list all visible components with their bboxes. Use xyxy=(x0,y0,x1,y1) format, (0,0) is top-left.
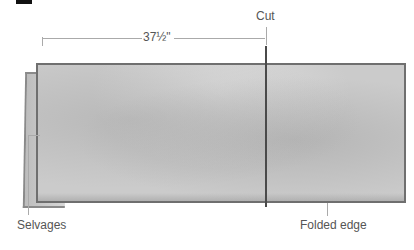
selvages-label: Selvages xyxy=(17,218,66,232)
selvages-leader-horizontal xyxy=(28,135,40,136)
cut-leader-line xyxy=(266,27,267,45)
folded-edge-shade xyxy=(36,193,406,203)
folded-edge-label: Folded edge xyxy=(300,218,367,232)
measurement-label: 37½" xyxy=(143,30,171,44)
cut-label: Cut xyxy=(256,9,275,23)
cut-line xyxy=(265,46,267,207)
measure-line-left xyxy=(42,38,142,39)
measure-line-right xyxy=(174,38,265,39)
fabric-rectangle xyxy=(36,63,406,203)
corner-marker xyxy=(16,0,32,4)
folded-edge-leader xyxy=(327,203,328,216)
selvages-leader-vertical xyxy=(28,135,29,215)
